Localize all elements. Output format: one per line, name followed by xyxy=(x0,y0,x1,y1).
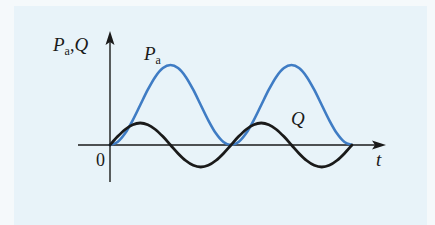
x-axis-label: t xyxy=(376,150,381,169)
y-label-symbol-q: Q xyxy=(74,34,88,55)
plot-area xyxy=(0,0,435,225)
origin-label: 0 xyxy=(96,151,105,169)
y-axis-label: Pa,Q xyxy=(53,35,88,54)
pa-label-subscript: a xyxy=(156,53,161,67)
curve-label-q: Q xyxy=(291,109,305,128)
curve-pa xyxy=(110,65,352,145)
y-label-symbol-p: P xyxy=(53,34,65,55)
curve-label-pa: Pa xyxy=(144,44,161,63)
pa-label-symbol: P xyxy=(144,43,156,64)
y-label-subscript-a: a xyxy=(65,44,70,58)
